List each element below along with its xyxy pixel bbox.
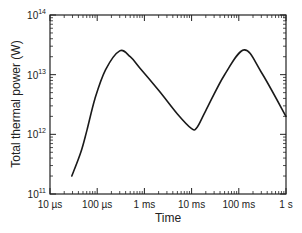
x-tick-label: 100 ms bbox=[222, 199, 255, 210]
chart: 1011101210131014 10 µs100 µs1 ms10 ms100… bbox=[0, 0, 302, 233]
y-axis: 1011101210131014 bbox=[27, 8, 286, 200]
y-tick-label: 1014 bbox=[27, 8, 46, 21]
plot-frame bbox=[50, 15, 286, 194]
power-curve bbox=[72, 50, 286, 176]
x-tick-label: 100 µs bbox=[82, 199, 112, 210]
y-tick-label: 1012 bbox=[27, 127, 46, 140]
x-axis-label: Time bbox=[155, 211, 182, 225]
x-tick-label: 10 µs bbox=[38, 199, 63, 210]
plot-border bbox=[50, 15, 286, 194]
y-tick-label: 1013 bbox=[27, 68, 46, 81]
y-axis-label: Total thermal power (W) bbox=[9, 40, 23, 167]
x-axis: 10 µs100 µs1 ms10 ms100 ms1 s bbox=[38, 15, 293, 210]
x-tick-label: 10 ms bbox=[178, 199, 205, 210]
x-tick-label: 1 s bbox=[279, 199, 292, 210]
x-tick-label: 1 ms bbox=[134, 199, 156, 210]
